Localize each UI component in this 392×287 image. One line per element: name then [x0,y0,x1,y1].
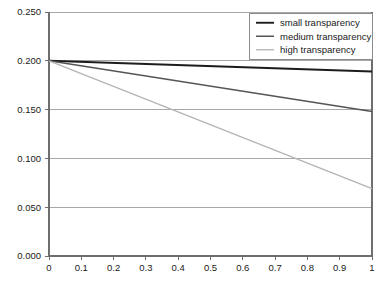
x-tick-label: 0.7 [268,262,281,273]
y-tick-label: 0.000 [17,250,41,261]
legend-label: medium transparency [280,31,372,42]
y-tick-label: 0.200 [17,55,41,66]
x-tick-label: 0.8 [301,262,314,273]
y-tick-label: 0.150 [17,104,41,115]
legend-label: small transparency [280,17,360,28]
chart-container: 0.0000.0500.1000.1500.2000.250 00.10.20.… [0,0,392,287]
legend-label: high transparency [280,44,356,55]
y-tick-label: 0.050 [17,202,41,213]
x-tick-label: 0.3 [139,262,152,273]
x-tick-label: 0.9 [333,262,346,273]
x-tick-label: 0.2 [107,262,120,273]
y-tick-label: 0.100 [17,153,41,164]
x-tick-label: 0 [46,262,51,273]
legend: small transparencymedium transparencyhig… [249,13,372,60]
y-tick-label: 0.250 [17,6,41,17]
x-tick-label: 0.6 [236,262,249,273]
x-tick-label: 0.1 [75,262,88,273]
x-tick-label: 0.4 [172,262,185,273]
line-chart: 0.0000.0500.1000.1500.2000.250 00.10.20.… [0,0,392,287]
x-tick-label: 0.5 [204,262,217,273]
x-tick-label: 1 [369,262,374,273]
